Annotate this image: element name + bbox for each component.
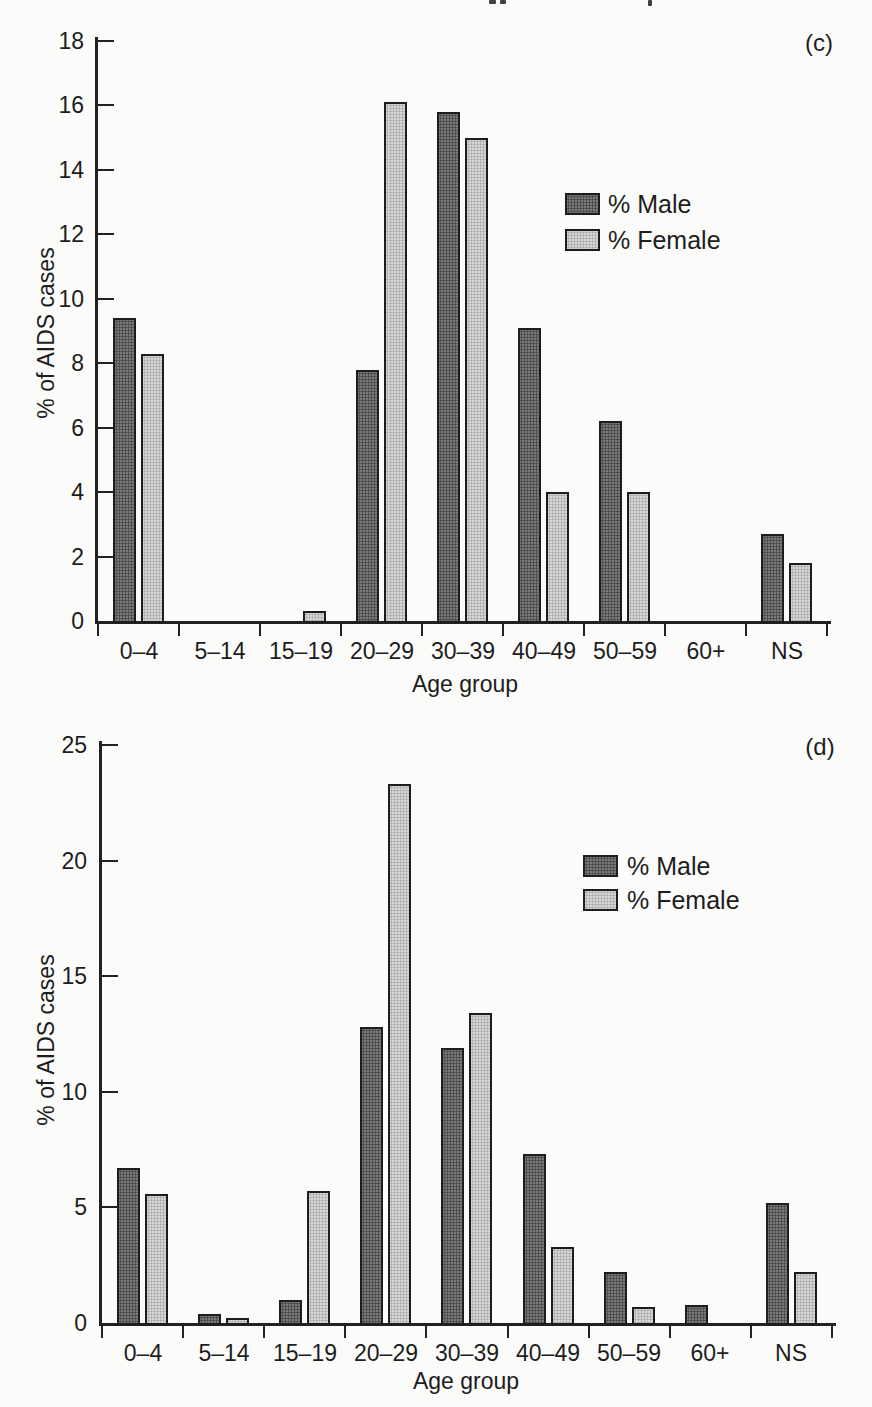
x-tick-mark [259,624,261,636]
x-category-label: 15–19 [256,639,346,664]
x-category-label: 40–49 [503,1341,593,1366]
y-tick-mark [98,362,114,364]
y-tick-mark [98,233,114,235]
bar-male-1 [198,1314,221,1325]
x-tick-mark [263,1326,265,1338]
chart-c-panel: 0246810121416180–45–1415–1920–2930–3940–… [0,0,872,707]
x-tick-mark [588,1326,590,1338]
bar-female-8 [794,1272,817,1325]
y-tick-label: 4 [24,480,84,505]
y-tick-mark [102,1206,118,1208]
x-tick-mark [664,624,666,636]
y-tick-mark [98,556,114,558]
legend-label: % Male [608,191,691,217]
bar-male-0 [117,1168,140,1325]
x-axis-title: Age group [386,1368,546,1394]
bar-male-3 [360,1027,383,1325]
bar-female-3 [384,102,407,623]
x-tick-mark [425,1326,427,1338]
x-axis-title: Age group [385,671,545,697]
y-tick-mark [102,975,118,977]
x-category-label: NS [746,1341,836,1366]
legend-swatch-female [565,229,600,251]
x-category-label: 50–59 [580,639,670,664]
x-category-label: 30–39 [422,1341,512,1366]
x-category-label: 0–4 [94,639,184,664]
x-tick-mark [507,1326,509,1338]
x-category-label: 20–29 [341,1341,431,1366]
bar-female-6 [627,492,650,623]
legend-label: % Female [608,227,721,253]
x-category-label: 5–14 [179,1341,269,1366]
y-tick-label: 25 [27,733,87,758]
x-tick-mark [178,624,180,636]
bar-female-2 [307,1191,330,1325]
x-tick-mark [831,1326,833,1338]
y-tick-label: 18 [24,29,84,54]
bar-male-8 [766,1203,789,1325]
bar-male-5 [518,328,541,623]
x-tick-mark [97,624,99,636]
bar-male-2 [279,1300,302,1325]
x-category-label: 5–14 [175,639,265,664]
x-category-label: 60+ [665,1341,755,1366]
y-tick-label: 14 [24,158,84,183]
bar-male-8 [761,534,784,623]
x-category-label: 0–4 [98,1341,188,1366]
y-tick-mark [98,491,114,493]
legend-swatch-male [583,855,618,877]
legend-swatch-male [565,193,600,215]
x-tick-mark [421,624,423,636]
bar-female-2 [303,611,326,623]
y-tick-mark [98,104,114,106]
x-category-label: 50–59 [584,1341,674,1366]
y-tick-label: 5 [27,1195,87,1220]
x-tick-mark [340,624,342,636]
x-category-label: 40–49 [499,639,589,664]
y-tick-mark [98,427,114,429]
bar-female-6 [632,1307,655,1325]
x-tick-mark [502,624,504,636]
legend-label: % Male [627,853,710,879]
bar-male-6 [599,421,622,623]
x-tick-mark [182,1326,184,1338]
x-tick-mark [101,1326,103,1338]
y-tick-mark [102,860,118,862]
legend-label: % Female [627,887,740,913]
y-axis-title: % of AIDS cases [33,223,59,443]
x-axis-line [95,621,831,624]
bar-male-7 [685,1305,708,1325]
y-tick-label: 20 [27,849,87,874]
bar-male-4 [437,112,460,623]
x-category-label: NS [742,639,832,664]
bar-female-5 [546,492,569,623]
y-tick-mark [98,40,114,42]
y-tick-label: 2 [24,545,84,570]
bar-female-1 [226,1318,249,1325]
bar-female-8 [789,563,812,623]
y-axis-title: % of AIDS cases [33,930,59,1150]
y-tick-mark [102,744,118,746]
x-category-label: 60+ [661,639,751,664]
y-tick-label: 0 [27,1311,87,1336]
panel-letter: (d) [790,733,850,761]
bar-male-6 [604,1272,627,1325]
panel-letter: (c) [789,29,849,57]
bar-male-3 [356,370,379,623]
bar-male-0 [113,318,136,623]
y-tick-mark [98,169,114,171]
y-axis-line [99,741,102,1326]
figure-page: 0246810121416180–45–1415–1920–2930–3940–… [0,0,872,1407]
bar-male-5 [523,1154,546,1325]
x-tick-mark [745,624,747,636]
bar-female-0 [145,1194,168,1325]
bar-female-4 [465,138,488,623]
bar-female-0 [141,354,164,623]
x-tick-mark [344,1326,346,1338]
bar-female-5 [551,1247,574,1325]
x-tick-mark [826,624,828,636]
y-tick-mark [98,298,114,300]
bar-female-3 [388,784,411,1325]
y-tick-mark [102,1091,118,1093]
x-category-label: 30–39 [418,639,508,664]
